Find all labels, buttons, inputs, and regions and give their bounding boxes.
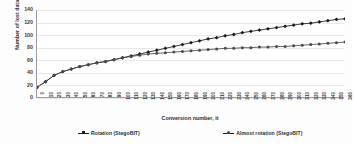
data-point-marker [215, 36, 219, 40]
data-point-marker [240, 31, 244, 35]
legend-dot [82, 131, 85, 134]
data-point-marker [121, 56, 124, 59]
series-line [37, 42, 345, 87]
y-tick-label: 120 [24, 20, 33, 25]
data-point-marker [147, 53, 150, 56]
data-point-marker [344, 41, 346, 44]
circle-marker-icon [223, 130, 234, 136]
y-axis-tick-labels: 020406080100120140 [16, 10, 33, 98]
data-point-marker [343, 17, 345, 21]
data-point-marker [155, 52, 158, 55]
data-point-marker [301, 44, 304, 47]
data-point-marker [172, 51, 175, 54]
data-point-marker [326, 19, 330, 23]
legend-item-almost-rotation[interactable]: Almost rotation (StegoBIT) [223, 130, 303, 136]
series-rotation [37, 17, 345, 89]
data-point-marker [181, 43, 185, 47]
diamond-marker-icon [78, 130, 89, 136]
legend-dot [227, 131, 230, 134]
data-point-marker [155, 48, 159, 52]
data-point-marker [292, 44, 295, 47]
data-point-marker [130, 55, 133, 58]
data-point-marker [163, 46, 167, 50]
data-point-marker [267, 46, 270, 49]
data-point-marker [104, 60, 107, 63]
data-point-marker [335, 18, 339, 22]
data-point-marker [258, 28, 262, 32]
y-tick-label: 40 [27, 70, 33, 75]
y-tick-label: 0 [30, 95, 33, 100]
data-point-marker [61, 70, 64, 73]
data-point-marker [309, 21, 313, 25]
data-point-marker [164, 51, 167, 54]
data-point-marker [317, 20, 321, 24]
data-point-marker [232, 47, 235, 50]
data-point-marker [44, 80, 47, 83]
data-point-marker [95, 61, 98, 64]
data-point-marker [318, 42, 321, 45]
x-axis-tick-labels: 0102030405060708090100110120130140150160… [36, 99, 344, 115]
x-tick-label: 360 [344, 92, 357, 106]
data-point-marker [78, 65, 81, 68]
data-point-marker [309, 43, 312, 46]
data-point-marker [284, 45, 287, 48]
legend-label: Rotation (StegoBIT) [91, 130, 140, 136]
x-axis-title: Conversion number, it [36, 115, 344, 121]
data-point-marker [335, 41, 338, 44]
data-point-marker [275, 45, 278, 48]
series-line [37, 19, 345, 88]
data-point-marker [70, 68, 73, 71]
y-tick-label: 140 [24, 7, 33, 12]
y-tick-label: 20 [27, 83, 33, 88]
data-point-marker [326, 42, 329, 45]
data-point-marker [53, 74, 56, 77]
data-point-marker [300, 22, 304, 26]
series-almost-rotation [37, 41, 345, 89]
data-point-marker [223, 34, 227, 38]
data-point-marker [189, 41, 193, 45]
data-point-marker [87, 63, 90, 66]
data-point-marker [224, 47, 227, 50]
data-point-marker [207, 48, 210, 51]
series-layer [37, 10, 345, 98]
data-point-marker [190, 49, 193, 52]
data-point-marker [292, 23, 296, 27]
data-point-marker [232, 33, 236, 37]
y-tick-label: 100 [24, 33, 33, 38]
data-point-marker [283, 24, 287, 28]
data-point-marker [181, 50, 184, 53]
y-tick-label: 60 [27, 58, 33, 63]
data-point-marker [198, 49, 201, 52]
data-point-marker [172, 45, 176, 49]
data-point-marker [249, 46, 252, 49]
data-point-marker [249, 29, 253, 33]
plot-area [36, 10, 344, 98]
legend-label: Almost rotation (StegoBIT) [236, 130, 302, 136]
data-point-marker [138, 54, 141, 57]
chart-legend: Rotation (StegoBIT)Almost rotation (Steg… [36, 127, 344, 139]
data-point-marker [241, 46, 244, 49]
data-point-marker [275, 26, 279, 30]
data-point-marker [113, 58, 116, 61]
data-point-marker [258, 46, 261, 49]
data-point-marker [215, 47, 218, 50]
y-tick-label: 80 [27, 45, 33, 50]
data-point-marker [266, 27, 270, 31]
data-point-marker [206, 37, 210, 41]
legend-item-rotation[interactable]: Rotation (StegoBIT) [78, 130, 140, 136]
data-point-marker [198, 39, 202, 43]
